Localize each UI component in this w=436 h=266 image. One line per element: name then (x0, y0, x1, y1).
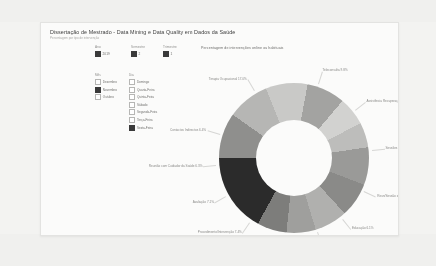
checkbox-icon[interactable] (163, 51, 169, 57)
chart-title: Percentagem de intervenções online ou ha… (201, 46, 283, 50)
legend-item-label: Sexta-Feira (137, 126, 153, 130)
donut-leader-line (364, 191, 376, 197)
checkbox-icon[interactable] (95, 79, 101, 85)
slicer-trimestre-row[interactable]: 1 (163, 51, 177, 57)
slicer-trimestre-title: Trimestre (163, 45, 177, 49)
checkbox-icon[interactable] (129, 102, 135, 108)
donut-leader-line (284, 235, 286, 236)
legend-item-label: Domingo (137, 80, 149, 84)
legend-item-segunda-feira[interactable]: Segunda-Feira (129, 109, 157, 115)
legend-mes-head: Mês (95, 73, 117, 77)
donut-leader-line (203, 165, 216, 167)
page-title: Dissertação de Mestrado - Data Mining e … (50, 29, 235, 35)
donut-leader-line (242, 222, 250, 233)
donut-slice-label: Assistência Recuperação 9.1% (366, 100, 399, 104)
donut-slice-label: Reun/Sessão de Estudo em Serviço 8.3% (377, 195, 399, 199)
slicer-ano-row[interactable]: 2019 (95, 51, 110, 57)
donut-leader-line (318, 232, 322, 236)
donut-slice-label: Procedimento/Intervenção 7.4% (198, 231, 242, 235)
donut-leader-line (372, 149, 385, 151)
donut-slice-label: Teleconsulta 9.8% (323, 69, 348, 73)
legend-item-label: Novembro (103, 88, 117, 92)
checkbox-icon[interactable] (131, 51, 137, 57)
donut-slice-label: Avaliação 7.1% (193, 201, 214, 205)
legend-item-sabado[interactable]: Sábado (129, 102, 157, 108)
slicer-semestre-value: 2 (139, 52, 141, 56)
legend-item-quarta-feira[interactable]: Quarta-Feira (129, 87, 157, 93)
checkbox-icon[interactable] (129, 117, 135, 123)
checkbox-icon[interactable] (129, 79, 135, 85)
legend-item-label: Segunda-Feira (137, 110, 157, 114)
donut-slice-label: Terapia Ocupacional 17.0% (209, 78, 247, 82)
slicer-ano[interactable]: Ano 2019 (95, 45, 110, 57)
legend-column-dia[interactable]: Dia Domingo Quarta-Feira Quinta-Feira Sá… (129, 73, 157, 132)
donut-leader-line (355, 102, 366, 110)
legend-panel[interactable]: Mês Dezembro Novembro Outubro Dia (95, 73, 157, 132)
donut-hole (256, 120, 332, 196)
slicer-ano-title: Ano (95, 45, 110, 49)
donut-slice-label: Educação 6.1% (352, 227, 374, 231)
donut-slice-label: Sessões de Grupo 9.0% (386, 147, 399, 151)
checkbox-checked-icon[interactable] (129, 125, 135, 131)
legend-dia-head: Dia (129, 73, 157, 77)
checkbox-icon[interactable] (95, 51, 101, 57)
background-texture (0, 0, 436, 22)
checkbox-icon[interactable] (95, 94, 101, 100)
legend-item-dezembro[interactable]: Dezembro (95, 79, 117, 85)
legend-item-label: Terça-Feira (137, 118, 153, 122)
donut-leader-line (318, 71, 322, 84)
page-subtitle: Percentagem por tipo de intervenção (50, 36, 99, 40)
legend-item-label: Sábado (137, 103, 148, 107)
legend-item-outubro[interactable]: Outubro (95, 94, 117, 100)
donut-leader-line (207, 130, 220, 134)
legend-item-label: Quinta-Feira (137, 95, 154, 99)
checkbox-icon[interactable] (129, 109, 135, 115)
donut-leader-line (248, 79, 255, 90)
slicer-trimestre-value: 1 (171, 52, 173, 56)
donut-slice-label: Contactos Indirectos 6.4% (170, 129, 206, 133)
legend-item-label: Dezembro (103, 80, 117, 84)
donut-chart[interactable]: Teleconsulta 9.8%Assistência Recuperação… (219, 83, 369, 233)
legend-item-sexta-feira[interactable]: Sexta-Feira (129, 125, 157, 131)
slicer-trimestre[interactable]: Trimestre 1 (163, 45, 177, 57)
legend-item-label: Outubro (103, 95, 114, 99)
donut-slice-label: Reunião com Cuidador da Saúde 6.3% (149, 165, 203, 169)
slicer-ano-value: 2019 (103, 52, 110, 56)
legend-item-label: Quarta-Feira (137, 88, 155, 92)
legend-item-quinta-feira[interactable]: Quinta-Feira (129, 94, 157, 100)
legend-column-mes[interactable]: Mês Dezembro Novembro Outubro (95, 73, 117, 132)
background-texture (0, 234, 436, 266)
slicer-semestre[interactable]: Semestre 2 (131, 45, 145, 57)
slicer-semestre-row[interactable]: 2 (131, 51, 145, 57)
legend-item-domingo[interactable]: Domingo (129, 79, 157, 85)
legend-item-novembro[interactable]: Novembro (95, 87, 117, 93)
dashboard-page: Dissertação de Mestrado - Data Mining e … (0, 0, 436, 266)
slicer-semestre-title: Semestre (131, 45, 145, 49)
checkbox-checked-icon[interactable] (95, 87, 101, 93)
legend-item-terca-feira[interactable]: Terça-Feira (129, 117, 157, 123)
checkbox-icon[interactable] (129, 87, 135, 93)
donut-leader-line (215, 196, 227, 203)
checkbox-icon[interactable] (129, 94, 135, 100)
report-canvas: Dissertação de Mestrado - Data Mining e … (40, 22, 399, 236)
donut-leader-line (342, 219, 351, 229)
